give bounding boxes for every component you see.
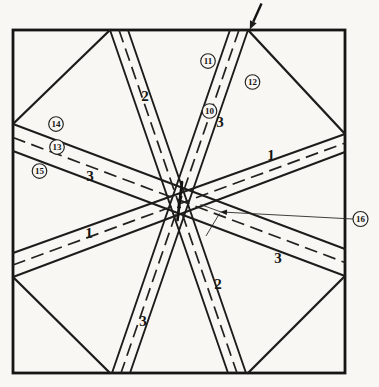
ref-marker-13: 13 (50, 140, 65, 155)
ref-marker-11: 11 (201, 54, 216, 69)
band-label-2-upper: 2 (141, 88, 149, 104)
band-label-3-flat-right: 3 (274, 250, 282, 266)
ref-number-13: 13 (53, 142, 63, 152)
ref-marker-10: 10 (202, 104, 217, 119)
band-label-3-steep-upper: 3 (216, 114, 224, 130)
ref-number-10: 10 (205, 106, 215, 116)
band-label-1-left: 1 (85, 225, 93, 241)
band-label-2-lower: 2 (214, 276, 222, 292)
ref-marker-16: 16 (353, 212, 368, 227)
ref-number-11: 11 (204, 56, 213, 66)
ref-number-16: 16 (356, 214, 366, 224)
ref-number-15: 15 (35, 166, 45, 176)
patent-figure: 1 1 2 2 3 3 3 3 11 12 10 14 13 15 16 (0, 0, 379, 387)
ref-marker-12: 12 (245, 75, 260, 90)
ref-number-12: 12 (248, 77, 258, 87)
paper-background (0, 0, 379, 387)
ref-number-14: 14 (52, 119, 62, 129)
band-label-3-steep-lower: 3 (139, 313, 147, 329)
patent-figure-canvas: 1 1 2 2 3 3 3 3 11 12 10 14 13 15 16 (0, 0, 379, 387)
ref-marker-14: 14 (49, 117, 64, 132)
ref-marker-15: 15 (32, 164, 47, 179)
band-label-1-right: 1 (267, 147, 275, 163)
band-label-3-flat-left: 3 (86, 168, 94, 184)
